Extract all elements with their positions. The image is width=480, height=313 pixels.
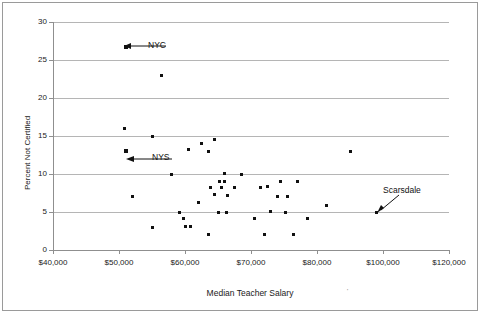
data-point [213, 193, 216, 196]
gridline-y [53, 60, 449, 61]
gridline-y [53, 98, 449, 99]
data-point [263, 233, 266, 236]
data-point [269, 210, 272, 213]
data-point [170, 173, 173, 176]
x-tick [185, 250, 186, 254]
x-tick [317, 250, 318, 254]
scatter-chart: Percent Not Certified 051015202530 $40,0… [0, 0, 480, 313]
data-point [182, 217, 185, 220]
annotation-arrow-nys [126, 153, 174, 165]
gridline-y [53, 174, 449, 175]
data-point [349, 150, 352, 153]
y-tick-label: 20 [19, 94, 47, 102]
data-point [306, 217, 309, 220]
data-point [292, 233, 295, 236]
y-axis-title: Percent Not Certified [24, 116, 32, 190]
x-tick-label: $120,000 [419, 259, 479, 267]
data-point [286, 195, 289, 198]
data-point [240, 173, 243, 176]
y-tick-label: 10 [19, 170, 47, 178]
data-point [151, 226, 154, 229]
data-point [189, 225, 192, 228]
data-point [266, 185, 269, 188]
y-tick-label: 30 [19, 18, 47, 26]
y-tick-label: 5 [19, 208, 47, 216]
data-point [218, 180, 221, 183]
data-point [276, 195, 279, 198]
data-point [253, 217, 256, 220]
annotation-arrow-scarsdale [375, 193, 403, 215]
y-tick-label: 25 [19, 56, 47, 64]
gridline-y [53, 136, 449, 137]
data-point [207, 233, 210, 236]
data-point [151, 135, 154, 138]
data-point [325, 204, 328, 207]
data-point [223, 172, 226, 175]
annotation-arrow-nyc [124, 40, 168, 52]
data-point [207, 150, 210, 153]
x-tick-label: $40,000 [23, 259, 83, 267]
data-point [296, 180, 299, 183]
stray-artifact: ' [347, 288, 348, 294]
data-point [226, 194, 229, 197]
x-tick [119, 250, 120, 254]
y-axis-line [53, 22, 54, 251]
data-point [217, 211, 220, 214]
x-tick-label: $80,000 [287, 259, 347, 267]
data-point [213, 138, 216, 141]
x-tick [53, 250, 54, 254]
gridline-y [53, 22, 449, 23]
x-tick-label: $60,000 [155, 259, 215, 267]
data-point [160, 74, 163, 77]
data-point [223, 180, 226, 183]
y-tick-label: 0 [19, 246, 47, 254]
data-point [178, 211, 181, 214]
data-point [197, 201, 200, 204]
data-point [225, 211, 228, 214]
data-point [284, 211, 287, 214]
data-point [184, 225, 187, 228]
data-point [279, 180, 282, 183]
x-tick-label: $100,000 [353, 259, 413, 267]
x-tick-label: $70,000 [221, 259, 281, 267]
y-tick-label: 15 [19, 132, 47, 140]
data-point [209, 186, 212, 189]
x-tick [251, 250, 252, 254]
x-tick [383, 250, 384, 254]
x-axis-title: Median Teacher Salary [160, 288, 340, 298]
data-point [200, 142, 203, 145]
data-point [220, 186, 223, 189]
data-point [187, 148, 190, 151]
x-tick-label: $50,000 [89, 259, 149, 267]
data-point [233, 186, 236, 189]
data-point [131, 195, 134, 198]
data-point [259, 186, 262, 189]
data-point [123, 127, 126, 130]
x-tick [449, 250, 450, 254]
